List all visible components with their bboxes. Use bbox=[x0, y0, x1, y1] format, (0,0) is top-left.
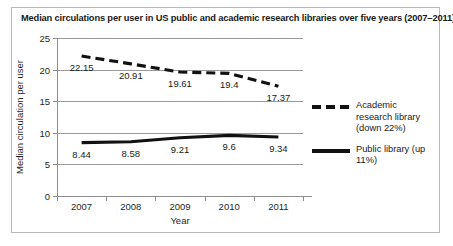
plot-area: 0510152025 22.1520.9119.6119.417.378.448… bbox=[57, 38, 303, 196]
data-point-label: 19.4 bbox=[220, 79, 239, 90]
y-tick-label: 0 bbox=[45, 191, 50, 202]
chart-title: Median circulations per user in US publi… bbox=[21, 13, 433, 23]
y-tick-label: 15 bbox=[39, 96, 50, 107]
legend-item-label: Academic research library (down 22%) bbox=[356, 100, 434, 135]
solid-line-swatch-icon bbox=[312, 149, 350, 153]
chart-legend: Academic research library (down 22%) Pub… bbox=[312, 100, 434, 176]
y-axis-title: Median circulation per user bbox=[14, 38, 28, 196]
x-tick-label: 2007 bbox=[71, 201, 92, 212]
chart-figure: Median circulations per user in US publi… bbox=[0, 0, 453, 246]
legend-item: Public library (up 11%) bbox=[312, 144, 434, 167]
x-axis-line bbox=[57, 196, 312, 197]
y-tick-label: 20 bbox=[39, 64, 50, 75]
dashed-line-swatch-icon bbox=[312, 105, 350, 109]
data-point-label: 20.91 bbox=[119, 70, 143, 81]
x-tick-mark bbox=[155, 196, 156, 201]
data-point-label: 9.34 bbox=[269, 143, 288, 154]
x-tick-mark bbox=[303, 196, 304, 201]
x-tick-label: 2010 bbox=[219, 201, 240, 212]
x-tick-mark bbox=[106, 196, 107, 201]
data-point-label: 9.6 bbox=[223, 141, 236, 152]
x-tick-label: 2011 bbox=[268, 201, 288, 212]
data-point-label: 8.58 bbox=[122, 148, 141, 159]
y-tick-label: 25 bbox=[39, 33, 50, 44]
data-point-label: 9.21 bbox=[171, 144, 190, 155]
x-tick-label: 2008 bbox=[120, 201, 141, 212]
x-tick-label: 2009 bbox=[169, 201, 190, 212]
data-point-label: 17.37 bbox=[267, 92, 291, 103]
x-axis-title: Year bbox=[57, 215, 303, 226]
x-tick-mark bbox=[205, 196, 206, 201]
data-point-label: 8.44 bbox=[72, 149, 91, 160]
series-layer bbox=[57, 38, 303, 196]
legend-item-label: Public library (up 11%) bbox=[356, 144, 434, 167]
y-tick-label: 5 bbox=[45, 159, 50, 170]
series-line bbox=[82, 135, 279, 142]
y-tick-label: 10 bbox=[39, 127, 50, 138]
x-tick-mark bbox=[254, 196, 255, 201]
x-tick-mark bbox=[57, 196, 58, 201]
data-point-label: 22.15 bbox=[70, 62, 94, 73]
legend-item: Academic research library (down 22%) bbox=[312, 100, 434, 135]
data-point-label: 19.61 bbox=[168, 78, 192, 89]
